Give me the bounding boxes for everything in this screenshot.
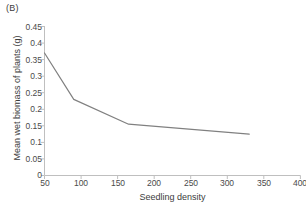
x-tick-label: 200 — [139, 179, 169, 188]
x-tick-label: 100 — [66, 179, 96, 188]
x-tick-label: 150 — [103, 179, 133, 188]
x-tick-label: 350 — [249, 179, 279, 188]
x-tick-label: 250 — [176, 179, 206, 188]
x-axis-tick-labels: 50 100 150 200 250 300 350 400 — [0, 0, 306, 211]
x-tick-label: 300 — [212, 179, 242, 188]
x-tick-label: 50 — [30, 179, 60, 188]
x-tick-label: 400 — [285, 179, 306, 188]
chart-figure: (B) Mean wet biomass of plants (g) Seedl… — [0, 0, 306, 211]
